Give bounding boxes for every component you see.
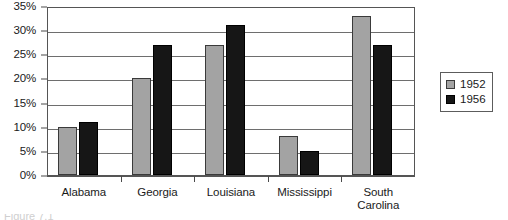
x-tick-mark [194,176,195,182]
y-tick-label: 25% [14,50,36,62]
chart-legend: 19521956 [440,72,493,112]
bar-south-carolina-1956 [373,45,392,175]
bar-chart-figure: 0%5%10%15%20%25%30%35% AlabamaGeorgiaLou… [0,0,508,220]
figure-caption-clipped: Figure 7.1 [0,214,508,220]
legend-item-1952: 1952 [446,77,486,92]
y-tick-label: 0% [20,170,36,182]
bar-group [342,8,415,175]
plot-area [47,7,415,176]
y-axis: 0%5%10%15%20%25%30%35% [0,0,47,176]
bar-georgia-1956 [153,45,172,175]
bar-group [48,8,122,175]
black-square-swatch [446,95,455,104]
bar-mississippi-1956 [300,151,319,175]
bar-group [195,8,269,175]
y-tick-label: 15% [14,98,36,110]
y-tick-label: 10% [14,122,36,134]
bar-louisiana-1952 [205,45,224,175]
x-axis-line [47,176,415,177]
bar-mississippi-1952 [279,136,298,175]
bar-louisiana-1956 [226,25,245,175]
bar-south-carolina-1952 [352,16,371,175]
figure-caption-text: Figure 7.1 [4,214,54,220]
gray-square-swatch [446,80,455,89]
bar-alabama-1952 [58,127,77,175]
legend-item-1956: 1956 [446,92,486,107]
y-tick-label: 35% [14,1,36,13]
y-tick-label: 20% [14,74,36,86]
y-tick-label: 30% [14,25,36,37]
x-tick-mark [268,176,269,182]
y-tick-label: 5% [20,146,36,158]
legend-label: 1952 [460,79,486,91]
bar-group [269,8,343,175]
x-tick-label: South Carolina [333,186,423,212]
x-tick-mark [341,176,342,182]
bars-layer [48,8,414,175]
x-tick-mark [121,176,122,182]
bar-georgia-1952 [132,78,151,175]
bar-alabama-1956 [79,122,98,175]
bar-group [122,8,196,175]
legend-label: 1956 [460,94,486,106]
